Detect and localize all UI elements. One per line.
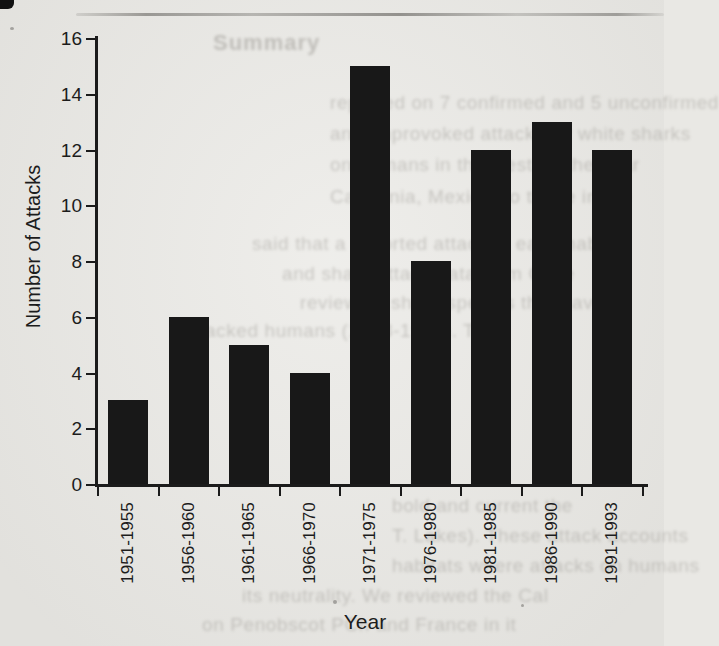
bar-1986-1990: [532, 122, 572, 484]
x-category-label: 1986-1990: [542, 458, 562, 628]
y-tick: [86, 428, 95, 430]
x-category-label: 1956-1960: [179, 458, 199, 628]
y-tick: [86, 484, 95, 486]
scan-speck: [521, 604, 524, 607]
x-category-label: 1951-1955: [118, 458, 138, 628]
x-axis-title: Year: [265, 610, 465, 634]
y-tick: [86, 373, 95, 375]
x-tick: [218, 487, 220, 496]
x-tick: [460, 487, 462, 496]
x-category-label: 1976-1980: [421, 458, 441, 628]
x-tick: [339, 487, 341, 496]
x-tick: [642, 487, 644, 496]
x-category-label: 1981-1985: [481, 458, 501, 628]
y-axis-line: [95, 36, 98, 487]
x-tick: [400, 487, 402, 496]
x-tick: [279, 487, 281, 496]
y-axis-title: Number of Attacks: [22, 87, 45, 407]
x-category-label: 1961-1965: [239, 458, 259, 628]
x-tick: [158, 487, 160, 496]
bar-1991-1993: [592, 150, 632, 485]
scan-speck: [333, 600, 337, 604]
x-tick: [581, 487, 583, 496]
y-tick-label: 2: [32, 418, 82, 440]
x-tick: [97, 487, 99, 496]
x-tick: [521, 487, 523, 496]
x-category-label: 1971-1975: [360, 458, 380, 628]
scan-speck: [10, 27, 14, 30]
bar-1971-1975: [350, 66, 390, 484]
bar-1981-1985: [471, 150, 511, 485]
bar-1976-1980: [411, 261, 451, 484]
y-tick: [86, 94, 95, 96]
x-category-label: 1991-1993: [602, 458, 622, 628]
y-tick: [86, 317, 95, 319]
x-category-label: 1966-1970: [300, 458, 320, 628]
y-tick: [86, 150, 95, 152]
y-tick-label: 16: [32, 28, 82, 50]
y-tick: [86, 205, 95, 207]
y-tick-label: 0: [32, 474, 82, 496]
y-tick: [86, 261, 95, 263]
y-tick: [86, 38, 95, 40]
